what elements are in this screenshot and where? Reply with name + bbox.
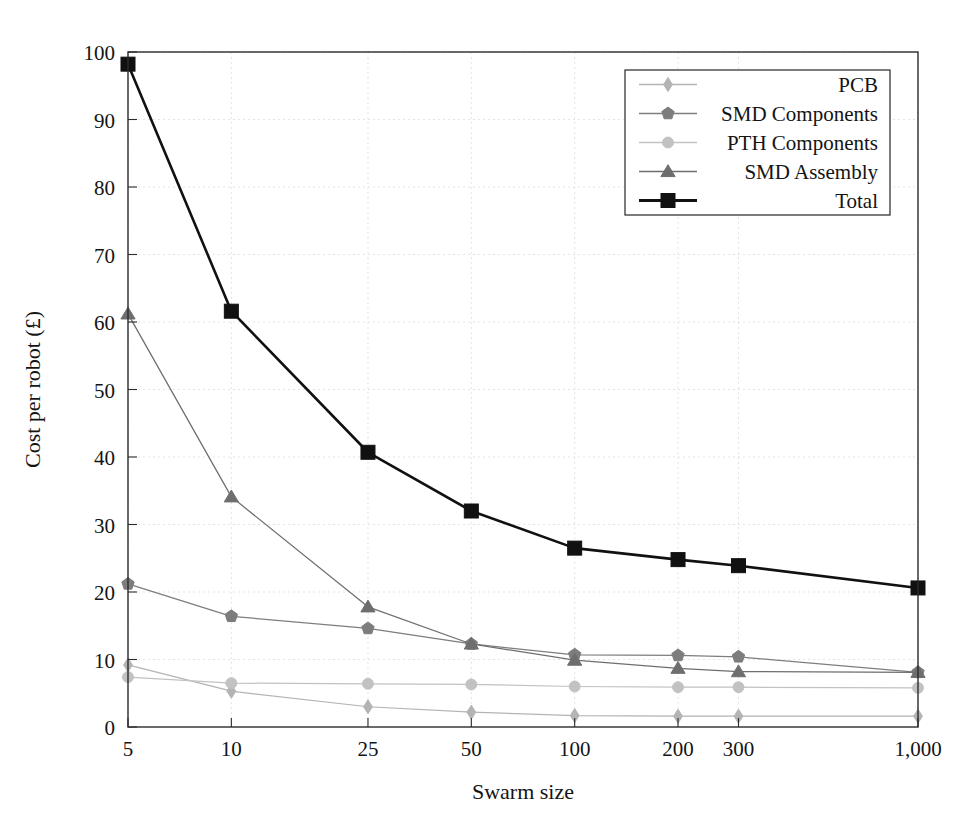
data-point — [464, 504, 478, 518]
cost-per-robot-line-chart: 010203040506070809010051025501002003001,… — [0, 0, 969, 827]
y-tick-label: 80 — [94, 176, 115, 200]
data-point — [467, 705, 476, 719]
y-tick-label: 20 — [94, 581, 115, 605]
x-tick-label: 300 — [723, 737, 755, 761]
data-point — [568, 541, 582, 555]
data-point — [364, 700, 373, 714]
y-axis-title: Cost per robot (£) — [20, 311, 45, 468]
series-pcb — [124, 658, 923, 723]
data-point — [361, 445, 375, 459]
legend-label: Total — [835, 189, 878, 213]
x-tick-label: 25 — [357, 737, 378, 761]
y-tick-label: 90 — [94, 109, 115, 133]
series-path — [128, 665, 918, 716]
series-pth-components — [123, 672, 924, 694]
data-point — [224, 304, 238, 318]
x-tick-label: 1,000 — [894, 737, 941, 761]
data-point — [671, 553, 685, 567]
data-point — [363, 678, 374, 689]
y-tick-label: 70 — [94, 244, 115, 268]
y-tick-label: 40 — [94, 446, 115, 470]
chart-legend[interactable]: PCBSMD ComponentsPTH ComponentsSMD Assem… — [625, 70, 890, 215]
series-path — [128, 677, 918, 688]
legend-marker — [661, 194, 675, 208]
y-tick-label: 60 — [94, 311, 115, 335]
y-tick-label: 0 — [105, 716, 116, 740]
x-tick-label: 200 — [662, 737, 694, 761]
series-path — [128, 314, 918, 672]
x-axis-title: Swarm size — [472, 779, 574, 804]
y-tick-label: 10 — [94, 649, 115, 673]
legend-label: PCB — [838, 73, 878, 97]
data-point — [731, 559, 745, 573]
legend-label: SMD Components — [721, 102, 878, 126]
series-path — [128, 584, 918, 672]
x-tick-label: 5 — [123, 737, 134, 761]
data-point — [732, 650, 744, 662]
legend-label: PTH Components — [727, 131, 878, 155]
y-tick-label: 50 — [94, 379, 115, 403]
data-point — [361, 600, 375, 612]
y-tick-label: 100 — [84, 41, 116, 65]
data-point — [673, 682, 684, 693]
data-point — [224, 490, 238, 502]
series-smd-components — [122, 577, 924, 677]
x-tick-label: 100 — [559, 737, 591, 761]
data-point — [226, 678, 237, 689]
legend-label: SMD Assembly — [744, 160, 878, 184]
legend-marker — [663, 137, 674, 148]
x-tick-label: 10 — [221, 737, 242, 761]
x-tick-label: 50 — [461, 737, 482, 761]
data-point — [569, 681, 580, 692]
data-point — [362, 622, 374, 634]
data-point — [466, 679, 477, 690]
data-point — [672, 649, 684, 661]
chart-figure: 010203040506070809010051025501002003001,… — [0, 0, 969, 827]
data-point — [733, 682, 744, 693]
data-point — [225, 610, 237, 622]
y-tick-label: 30 — [94, 514, 115, 538]
series-smd-assembly — [121, 307, 925, 677]
